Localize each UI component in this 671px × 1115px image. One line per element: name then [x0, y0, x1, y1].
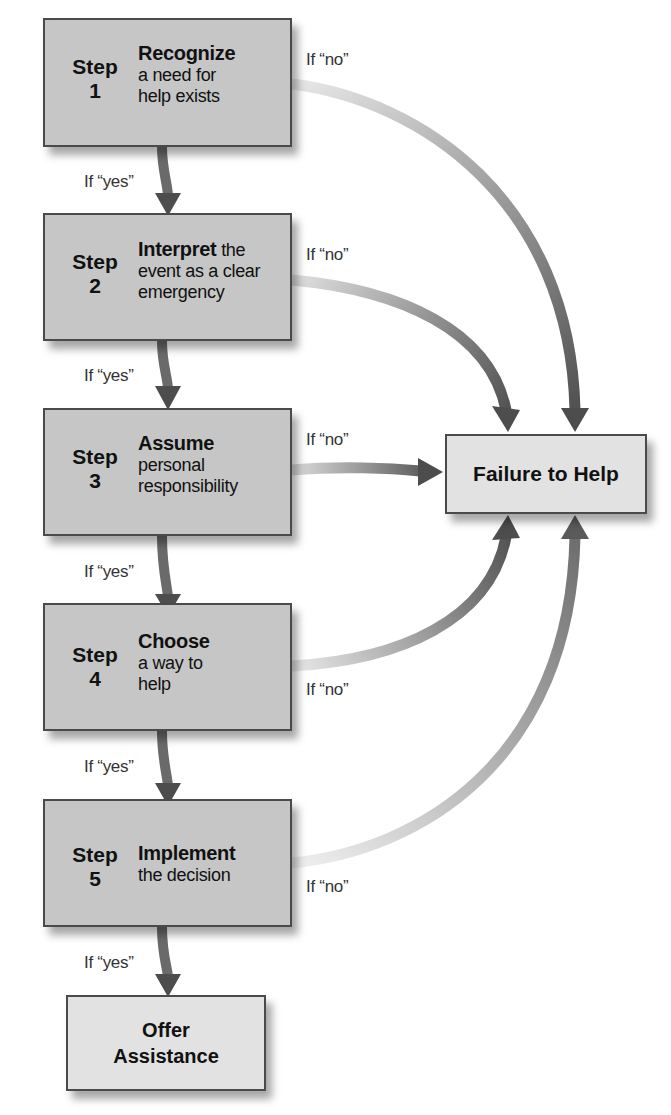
yes-label-2: If “yes”	[84, 366, 134, 386]
no-label-4: If “no”	[306, 680, 348, 700]
step-2-number: Step 2	[65, 250, 125, 298]
failure-to-help-box: Failure to Help	[445, 434, 647, 514]
step-1-title: Recognize	[138, 42, 235, 64]
step-5-title: Implement	[138, 842, 235, 864]
yes-label-1: If “yes”	[84, 172, 134, 192]
no-label-2: If “no”	[306, 245, 348, 265]
step-5-number: Step 5	[65, 843, 125, 891]
step-2-title: Interpret	[138, 238, 216, 260]
yes-label-5: If “yes”	[84, 953, 134, 973]
step-3-number: Step 3	[65, 445, 125, 493]
step-4-number: Step 4	[65, 643, 125, 691]
step-3-box: Step 3 Assume personal responsibility	[43, 408, 292, 536]
step-3-text: Assume personal responsibility	[138, 433, 238, 497]
offer-assistance-box: Offer Assistance	[66, 995, 266, 1091]
offer-assistance-label: Offer Assistance	[68, 1017, 264, 1069]
step-1-number: Step 1	[65, 55, 125, 103]
no-label-5: If “no”	[306, 877, 348, 897]
step-2-text: Interpret the event as a clear emergency	[138, 239, 260, 303]
yes-arrow-5-offer	[155, 927, 181, 997]
step-3-title: Assume	[138, 432, 214, 454]
connector-arrows	[0, 0, 671, 1115]
step-5-text: Implement the decision	[138, 843, 235, 886]
step-4-title: Choose	[138, 630, 210, 652]
no-label-1: If “no”	[306, 50, 348, 70]
step-4-box: Step 4 Choose a way to help	[43, 603, 292, 731]
yes-arrow-2-3	[155, 341, 181, 410]
no-arrow-step3	[292, 458, 443, 486]
step-1-text: Recognize a need for help exists	[138, 43, 235, 107]
yes-label-4: If “yes”	[84, 757, 134, 777]
yes-label-3: If “yes”	[84, 562, 134, 582]
no-arrow-step4	[292, 515, 520, 666]
step-5-box: Step 5 Implement the decision	[43, 799, 292, 927]
step-2-box: Step 2 Interpret the event as a clear em…	[43, 213, 292, 341]
yes-arrow-4-5	[155, 731, 181, 806]
step-4-text: Choose a way to help	[138, 631, 210, 695]
yes-arrow-1-2	[155, 147, 181, 216]
failure-to-help-label: Failure to Help	[447, 461, 645, 487]
no-label-3: If “no”	[306, 430, 348, 450]
no-arrow-step2	[292, 280, 520, 432]
step-1-box: Step 1 Recognize a need for help exists	[43, 18, 292, 147]
